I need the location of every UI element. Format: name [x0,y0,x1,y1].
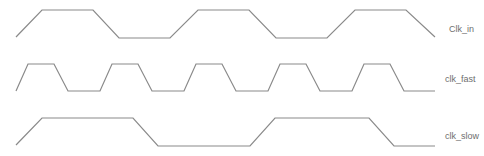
clk-slow-label: clk_slow [445,131,479,141]
clk-fast-waveform [16,64,435,91]
clk-in-label: Clk_in [449,24,474,34]
clk-fast-label: clk_fast [445,74,476,84]
waveform-canvas [0,0,484,156]
clk-in-waveform [16,10,435,38]
clk-slow-waveform [16,118,435,146]
